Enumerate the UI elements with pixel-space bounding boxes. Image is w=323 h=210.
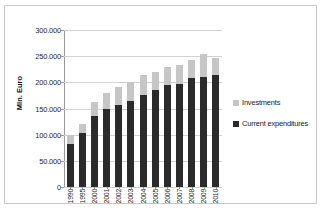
x-axis-tick-mark [179,187,180,189]
bar-column[interactable] [212,58,219,187]
legend-item-label: Current expenditures [242,119,308,128]
x-axis-tick-label: 1995 [79,189,86,203]
x-axis-tick-mark [119,187,120,189]
bar-segment-current-expenditures[interactable] [115,105,122,187]
x-axis-tick-mark [82,187,83,189]
bar-segment-investments[interactable] [103,93,110,109]
bar-segment-investments[interactable] [200,54,207,77]
legend-item[interactable]: Current expenditures [233,119,321,128]
x-axis-tick-label: 2004 [140,189,147,203]
bar-segment-current-expenditures[interactable] [188,78,195,187]
x-axis-tick-label: 2009 [200,189,207,203]
bar-column[interactable] [91,102,98,187]
x-axis-tick-label: 2002 [115,189,122,203]
bar-segment-current-expenditures[interactable] [140,95,147,187]
x-axis-tick-label: 2006 [164,189,171,203]
x-axis-tick-mark [70,187,71,189]
bar-segment-current-expenditures[interactable] [67,144,74,187]
bar-segment-investments[interactable] [91,102,98,116]
x-axis-tick-mark [143,187,144,189]
bar-column[interactable] [127,82,134,187]
y-axis-tick-label: 150.000 [7,104,61,113]
chart-frame: Mln. Euro 050.000100.000150.000200.00025… [4,5,317,204]
x-axis-tick-label: 2008 [188,189,195,203]
legend-item[interactable]: Investments [233,98,321,107]
bar-column[interactable] [140,75,147,187]
bar-segment-investments[interactable] [79,124,86,132]
bar-column[interactable] [176,65,183,187]
bar-segment-current-expenditures[interactable] [127,101,134,187]
x-axis-tick-label: 2007 [176,189,183,203]
legend-swatch-icon [233,100,239,106]
bar-segment-investments[interactable] [140,75,147,95]
bar-column[interactable] [164,67,171,187]
x-axis-tick-label: 2005 [152,189,159,203]
x-axis-tick-labels: 1990199520002001200220032004200520062007… [64,189,222,210]
y-axis-tick-label: 0 [7,183,61,192]
bar-segment-current-expenditures[interactable] [152,90,159,187]
x-axis-tick-mark [131,187,132,189]
bar-segment-current-expenditures[interactable] [103,109,110,188]
bar-column[interactable] [103,93,110,187]
x-axis-tick-mark [204,187,205,189]
bar-segment-investments[interactable] [164,67,171,86]
bar-segment-investments[interactable] [176,65,183,84]
gridline [64,30,222,31]
bar-segment-investments[interactable] [127,82,134,101]
x-axis-tick-mark [192,187,193,189]
chart-legend: InvestmentsCurrent expenditures [233,98,321,140]
bar-segment-investments[interactable] [212,58,219,75]
x-axis-tick-label: 1990 [67,189,74,203]
plot-area [64,30,222,187]
x-axis-tick-mark [167,187,168,189]
bar-column[interactable] [152,72,159,187]
legend-item-label: Investments [242,98,280,107]
x-axis-tick-label: 2003 [127,189,134,203]
gridline [64,56,222,57]
bar-segment-current-expenditures[interactable] [176,84,183,187]
x-axis-tick-mark [155,187,156,189]
y-axis-tick-label: 200.000 [7,78,61,87]
bar-segment-current-expenditures[interactable] [164,85,171,187]
x-axis-tick-label: 2000 [91,189,98,203]
bar-column[interactable] [79,124,86,187]
bar-segment-current-expenditures[interactable] [79,133,86,187]
bar-column[interactable] [67,135,74,187]
bar-segment-current-expenditures[interactable] [200,77,207,187]
bar-segment-investments[interactable] [67,135,74,144]
bar-segment-current-expenditures[interactable] [91,116,98,187]
y-axis-tick-labels: 050.000100.000150.000200.000250.000300.0… [5,30,61,187]
legend-swatch-icon [233,121,239,127]
bar-segment-investments[interactable] [115,87,122,105]
y-axis-tick-label: 300.000 [7,26,61,35]
y-axis-tick-label: 250.000 [7,52,61,61]
y-axis-tick-label: 100.000 [7,130,61,139]
x-axis-tick-mark [216,187,217,189]
x-axis-tick-label: 2010 [212,189,219,203]
bar-segment-current-expenditures[interactable] [212,75,219,187]
bar-column[interactable] [188,60,195,187]
bar-segment-investments[interactable] [152,72,159,90]
y-axis-tick-label: 50.000 [7,156,61,165]
x-axis-tick-label: 2001 [103,189,110,203]
bar-segment-investments[interactable] [188,60,195,78]
bar-column[interactable] [115,87,122,187]
bar-column[interactable] [200,54,207,187]
x-axis-tick-mark [107,187,108,189]
x-axis-tick-mark [94,187,95,189]
